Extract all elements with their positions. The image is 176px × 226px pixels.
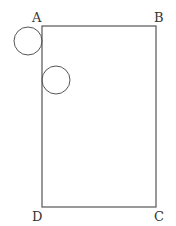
vertex-label-C: C bbox=[154, 209, 164, 224]
vertex-label-B: B bbox=[154, 10, 164, 25]
circle-at-A bbox=[14, 27, 42, 55]
rectangle-ABCD bbox=[42, 26, 156, 207]
circle-inside bbox=[42, 66, 70, 94]
geometry-diagram: A B C D bbox=[0, 0, 176, 226]
vertex-label-A: A bbox=[31, 10, 42, 25]
vertex-label-D: D bbox=[32, 209, 42, 224]
